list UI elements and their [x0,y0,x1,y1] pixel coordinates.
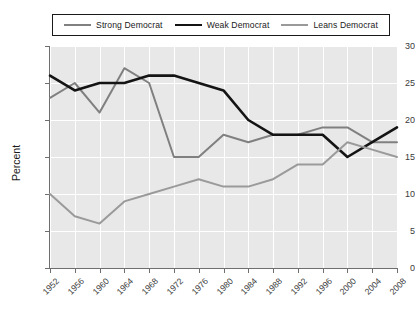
x-tick-mark [50,269,51,273]
x-tick-label: 1976 [181,276,209,304]
line-chart: Strong Democrat Weak Democrat Leans Demo… [0,0,415,311]
series-lines [50,46,398,268]
x-tick-label: 2004 [355,276,383,304]
y-tick-mark [45,268,49,269]
x-tick-label: 1984 [231,276,259,304]
x-tick-mark [149,269,150,273]
legend-label-leans-democrat: Leans Democrat [313,20,377,30]
x-tick-mark [323,269,324,273]
plot-area [50,46,398,268]
x-tick-label: 1972 [157,276,185,304]
x-tick-mark [397,269,398,273]
x-tick-mark [199,269,200,273]
x-tick-mark [298,269,299,273]
legend-swatch-strong-democrat [64,24,91,26]
y-tick-mark [45,157,49,158]
x-tick-mark [347,269,348,273]
x-tick-label: 2000 [330,276,358,304]
legend-item-strong-democrat: Strong Democrat [64,20,162,30]
y-tick-mark [45,46,49,47]
x-tick-label: 1992 [281,276,309,304]
x-tick-mark [75,269,76,273]
legend-item-weak-democrat: Weak Democrat [175,20,270,30]
x-tick-mark [174,269,175,273]
x-tick-label: 1964 [107,276,135,304]
x-tick-mark [248,269,249,273]
y-tick-mark [45,120,49,121]
x-tick-label: 1980 [206,276,234,304]
x-tick-label: 1952 [33,276,61,304]
x-tick-mark [100,269,101,273]
legend-swatch-leans-democrat [281,24,308,26]
x-tick-label: 1960 [82,276,110,304]
legend-swatch-weak-democrat [175,24,202,26]
x-tick-label: 1988 [256,276,284,304]
x-tick-label: 1968 [132,276,160,304]
legend-label-weak-democrat: Weak Democrat [207,20,270,30]
x-tick-label: 2008 [380,276,408,304]
x-tick-label: 1956 [58,276,86,304]
chart-legend: Strong Democrat Weak Democrat Leans Demo… [52,14,390,36]
y-tick-mark [45,83,49,84]
x-tick-mark [124,269,125,273]
x-tick-mark [372,269,373,273]
x-tick-label: 1996 [305,276,333,304]
y-tick-mark [45,194,49,195]
x-tick-mark [224,269,225,273]
legend-label-strong-democrat: Strong Democrat [96,20,162,30]
y-axis-title: Percent [10,123,22,203]
x-tick-mark [273,269,274,273]
legend-item-leans-democrat: Leans Democrat [281,20,377,30]
y-tick-mark [45,231,49,232]
